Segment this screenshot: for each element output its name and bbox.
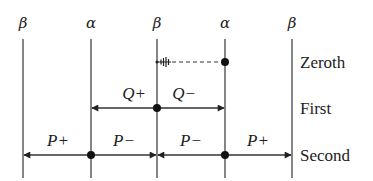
small-dot-icon: [156, 61, 159, 64]
origin-dot-icon: [221, 58, 229, 66]
first-row: Q+ Q−: [92, 84, 224, 112]
tick-comb-icon: [157, 57, 171, 67]
column-label-beta: β: [152, 14, 162, 32]
column-label-beta: β: [18, 14, 28, 32]
origin-dot-icon: [87, 151, 95, 159]
column-label-alpha: α: [86, 14, 96, 32]
column-label-beta: β: [287, 14, 297, 32]
origin-dot-icon: [221, 151, 229, 159]
diagram-canvas: β α β α β Q+ Q−: [0, 0, 373, 181]
column-label-alpha: α: [220, 14, 230, 32]
row-label-first: First: [300, 99, 331, 118]
q-plus-label: Q+: [122, 84, 146, 103]
zeroth-row: [156, 57, 230, 67]
row-label-zeroth: Zeroth: [300, 53, 346, 72]
p-plus-right-label: P+: [246, 131, 269, 150]
p-plus-left-label: P+: [46, 131, 69, 150]
q-minus-label: Q−: [172, 84, 196, 103]
origin-dot-icon: [153, 104, 161, 112]
order-diagram: β α β α β Q+ Q−: [0, 0, 373, 181]
p-minus-left-label: P−: [112, 131, 135, 150]
row-label-second: Second: [300, 146, 351, 165]
p-minus-right-label: P−: [179, 131, 202, 150]
